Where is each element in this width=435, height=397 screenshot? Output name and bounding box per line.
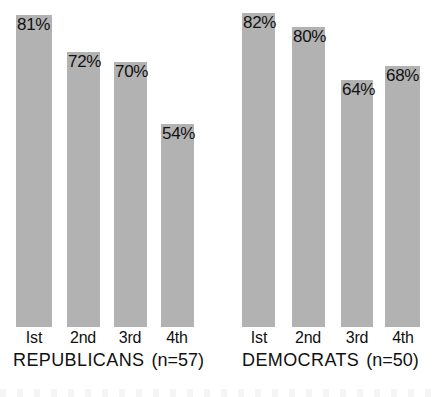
tick-label-democrats-4th: 4th <box>383 329 423 347</box>
bar-group-republicans: 81% 72% 70% 54% <box>0 0 220 327</box>
tick-label-democrats-3rd: 3rd <box>337 329 377 347</box>
group-caption-sample-size: (n=57) <box>151 350 204 370</box>
bar-value-label: 81% <box>17 16 50 34</box>
bar-value-label: 70% <box>115 63 148 81</box>
bar-value-label: 82% <box>243 14 276 32</box>
bar-group-democrats: 82% 80% 64% 68% <box>230 0 435 327</box>
bar-republicans-1st: 81% <box>16 15 52 327</box>
group-caption-democrats: DEMOCRATS(n=50) <box>242 350 419 370</box>
bar-republicans-2nd: 72% <box>67 52 100 327</box>
tick-row-democrats: Ist 2nd 3rd 4th <box>230 329 435 347</box>
bar-republicans-3rd: 70% <box>114 62 147 327</box>
tick-label-republicans-1st: Ist <box>14 329 54 347</box>
bar-value-label: 72% <box>68 53 101 71</box>
tick-row-republicans: Ist 2nd 3rd 4th <box>0 329 220 347</box>
bar-democrats-4th: 68% <box>385 66 420 327</box>
bar-value-label: 64% <box>342 81 375 99</box>
group-caption-name: REPUBLICANS <box>13 350 144 370</box>
scan-artifact-strip <box>0 389 435 397</box>
tick-label-democrats-1st: Ist <box>239 329 279 347</box>
tick-label-republicans-2nd: 2nd <box>63 329 103 347</box>
bar-value-label: 54% <box>162 125 195 143</box>
group-caption-republicans: REPUBLICANS(n=57) <box>13 350 204 370</box>
bar-chart: 81% 72% 70% 54% Ist 2nd 3rd 4th REPUBLIC… <box>0 0 435 397</box>
bar-value-label: 80% <box>293 28 326 46</box>
tick-label-republicans-4th: 4th <box>157 329 197 347</box>
bar-democrats-1st: 82% <box>242 13 275 327</box>
bar-value-label: 68% <box>386 67 419 85</box>
group-caption-sample-size: (n=50) <box>366 350 419 370</box>
group-caption-name: DEMOCRATS <box>242 350 359 370</box>
tick-label-democrats-2nd: 2nd <box>288 329 328 347</box>
bar-democrats-2nd: 80% <box>292 27 325 327</box>
bar-democrats-3rd: 64% <box>341 80 373 327</box>
bar-republicans-4th: 54% <box>161 124 194 327</box>
tick-label-republicans-3rd: 3rd <box>110 329 150 347</box>
